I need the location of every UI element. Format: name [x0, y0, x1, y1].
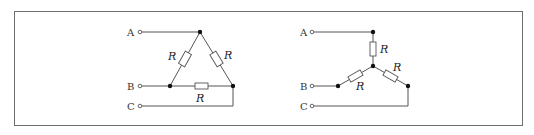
star-resistor-left-label: R: [355, 80, 364, 93]
delta-terminal-c-label: C: [127, 101, 135, 112]
star-terminal-b: [310, 84, 314, 88]
delta-terminal-b-label: B: [127, 81, 134, 92]
delta-terminal-a: [138, 30, 142, 34]
delta-terminal-b: [138, 84, 142, 88]
delta-resistor-left-label: R: [167, 50, 176, 63]
star-circuit: A B C R R R: [299, 27, 410, 112]
star-terminal-c-label: C: [300, 101, 308, 112]
star-node-center: [371, 64, 375, 68]
delta-resistor-bottom: [195, 83, 208, 89]
star-resistor-top: [370, 42, 376, 56]
delta-node-left: [168, 84, 172, 88]
delta-circuit: A B C R R R: [126, 27, 235, 112]
delta-resistor-right: [210, 51, 223, 67]
delta-node-right: [231, 84, 235, 88]
star-node-left: [336, 84, 340, 88]
star-terminal-a: [310, 30, 314, 34]
delta-node-top: [198, 30, 202, 34]
delta-terminal-a-label: A: [126, 27, 135, 38]
star-node-right: [406, 84, 410, 88]
delta-wire-c: [142, 86, 233, 106]
star-resistor-right-label: R: [392, 61, 401, 74]
star-terminal-a-label: A: [299, 27, 308, 38]
delta-resistor-left: [179, 51, 192, 67]
star-terminal-c: [310, 104, 314, 108]
delta-resistor-right-label: R: [223, 49, 232, 62]
star-terminal-b-label: B: [300, 81, 307, 92]
delta-resistor-bottom-label: R: [195, 92, 204, 105]
circuit-diagram: A B C R R R A B C: [0, 0, 534, 135]
star-node-top: [371, 30, 375, 34]
star-resistor-top-label: R: [379, 43, 388, 56]
delta-terminal-c: [138, 104, 142, 108]
